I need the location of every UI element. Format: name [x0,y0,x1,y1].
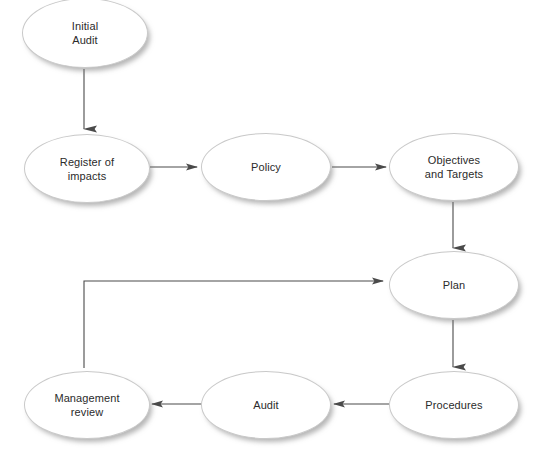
edge-management-review-to-plan [84,281,383,368]
node-policy-label: Policy [243,160,289,174]
node-plan[interactable]: Plan [389,251,519,319]
node-objectives-and-targets-label: Objectives and Targets [417,153,491,181]
node-register-of-impacts[interactable]: Register of impacts [24,134,150,203]
node-audit[interactable]: Audit [201,371,331,439]
node-initial-audit[interactable]: Initial Audit [22,0,148,68]
node-policy[interactable]: Policy [201,133,331,201]
node-register-of-impacts-label: Register of impacts [52,155,122,183]
node-initial-audit-label: Initial Audit [64,19,106,47]
node-audit-label: Audit [245,398,287,412]
node-management-review-label: Management review [46,391,127,419]
node-procedures[interactable]: Procedures [389,371,519,439]
flowchart-diagram: Initial Audit Register of impacts Policy… [0,0,540,460]
node-management-review[interactable]: Management review [24,371,150,439]
node-plan-label: Plan [435,278,473,292]
node-objectives-and-targets[interactable]: Objectives and Targets [389,133,519,201]
node-procedures-label: Procedures [417,398,490,412]
